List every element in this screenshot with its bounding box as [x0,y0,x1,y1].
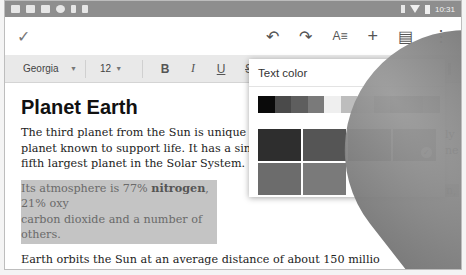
color-swatch[interactable] [258,96,275,113]
text-format-icon[interactable]: A≡ [332,29,347,43]
app-bar: ✓ ↶ ↷ A≡ + ▤ ⋮ [5,17,461,55]
bold-button[interactable]: B [151,62,179,76]
chevron-down-icon: ▼ [115,65,122,72]
color-swatch[interactable] [291,96,308,113]
divider [85,60,86,78]
color-shade-swatch[interactable] [258,129,301,161]
underline-button[interactable]: U [207,62,235,76]
gallery-icon [11,5,20,13]
font-size: 12 [100,63,111,74]
font-dropdown[interactable]: Georgia ▼ [23,63,85,74]
download-icon [71,5,76,13]
play-store-icon [82,5,88,13]
wifi-icon [410,5,420,13]
font-name: Georgia [23,63,59,74]
color-shade-swatch[interactable] [258,163,301,195]
color-swatch[interactable] [308,96,325,113]
clock: 10:31 [435,5,455,14]
color-shade-swatch[interactable] [303,129,346,161]
divider [142,60,143,78]
redo-icon[interactable]: ↷ [299,27,312,46]
color-shade-swatch[interactable] [303,163,346,195]
selected-text[interactable]: Its atmosphere is 77% nitrogen, 21% oxyc… [21,180,217,244]
sync-icon [56,5,65,13]
color-swatch[interactable] [275,96,292,113]
done-check-icon[interactable]: ✓ [17,27,30,46]
email-icon [26,5,35,13]
status-bar: 10:31 [5,1,461,17]
chevron-down-icon: ▼ [70,65,77,72]
color-swatch[interactable] [324,96,341,113]
italic-button[interactable]: I [179,61,207,76]
undo-icon[interactable]: ↶ [266,27,279,46]
font-size-dropdown[interactable]: 12 ▼ [100,63,122,74]
calendar-icon [41,5,50,13]
insert-icon[interactable]: + [367,26,378,47]
battery-icon [425,5,430,14]
app-window: 10:31 ✓ ↶ ↷ A≡ + ▤ ⋮ Georgia ▼ 12 ▼ B I … [4,0,462,270]
bluetooth-icon [401,5,405,13]
